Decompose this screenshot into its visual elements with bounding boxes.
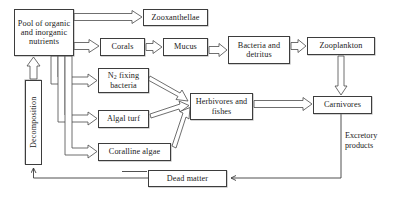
node-bacteria-and-detritus[interactable]: Bacteria and detritus bbox=[228, 36, 290, 64]
arrow-pool-to-zooxanthellae bbox=[74, 11, 142, 24]
arrow-zooplankton-to-carnivores bbox=[335, 56, 347, 95]
node-algal-turf[interactable]: Algal turf bbox=[98, 110, 149, 128]
node-label: Bacteria and detritus bbox=[231, 41, 287, 59]
node-decomposition[interactable]: Decomposition bbox=[25, 80, 42, 165]
node-label: Pool of organic and inorganic nutrients bbox=[17, 19, 71, 47]
arrow-pool-to-algalturf bbox=[58, 56, 97, 125]
node-label: Corals bbox=[112, 42, 134, 51]
node-label: Mucus bbox=[174, 42, 197, 51]
arrow-carnivores-to-deadmatter bbox=[231, 114, 341, 178]
node-n2-fixing-bacteria[interactable]: N2 fixing bacteria bbox=[98, 68, 149, 93]
node-label: Herbivores and fishes bbox=[193, 97, 250, 115]
node-zooplankton[interactable]: Zooplankton bbox=[307, 37, 375, 55]
node-corals[interactable]: Corals bbox=[100, 38, 145, 56]
node-mucus[interactable]: Mucus bbox=[163, 38, 208, 56]
node-zooxanthellae[interactable]: Zooxanthellae bbox=[143, 9, 208, 26]
node-label: Dead matter bbox=[167, 174, 208, 183]
arrow-coralline-to-herbivores bbox=[172, 108, 190, 149]
thin-connectors bbox=[34, 114, 342, 178]
label-excretory-products: Excretory products bbox=[345, 131, 397, 151]
arrow-pool-to-coralline bbox=[65, 56, 97, 158]
node-label: Coralline algae bbox=[109, 147, 160, 156]
hollow-arrows bbox=[27, 11, 347, 159]
arrow-decomposition-to-pool bbox=[27, 57, 40, 79]
node-label: Algal turf bbox=[107, 114, 140, 123]
diagram-canvas: Pool of organic and inorganic nutrients … bbox=[0, 0, 399, 199]
node-dead-matter[interactable]: Dead matter bbox=[148, 170, 227, 187]
node-coralline-algae[interactable]: Coralline algae bbox=[98, 143, 171, 161]
arrow-herbivores-to-carnivores bbox=[254, 98, 312, 111]
node-label: Decomposition bbox=[29, 97, 38, 148]
node-label: Zooplankton bbox=[320, 41, 363, 50]
node-herbivores-and-fishes[interactable]: Herbivores and fishes bbox=[190, 93, 253, 120]
node-pool-of-nutrients[interactable]: Pool of organic and inorganic nutrients bbox=[14, 9, 74, 56]
arrow-n2fixing-to-herbivores bbox=[148, 76, 188, 101]
node-label: Zooxanthellae bbox=[151, 13, 199, 22]
arrow-pool-to-corals bbox=[74, 40, 99, 53]
node-label: N2 fixing bacteria bbox=[101, 71, 146, 90]
arrow-deadmatter-to-decomposition bbox=[34, 168, 149, 178]
arrow-mucus-to-bacteria bbox=[209, 44, 227, 57]
node-carnivores[interactable]: Carnivores bbox=[313, 96, 372, 114]
arrow-corals-to-mucus bbox=[146, 41, 162, 54]
arrow-bacteria-to-zooplankton bbox=[291, 40, 306, 53]
node-label: Carnivores bbox=[324, 100, 361, 109]
